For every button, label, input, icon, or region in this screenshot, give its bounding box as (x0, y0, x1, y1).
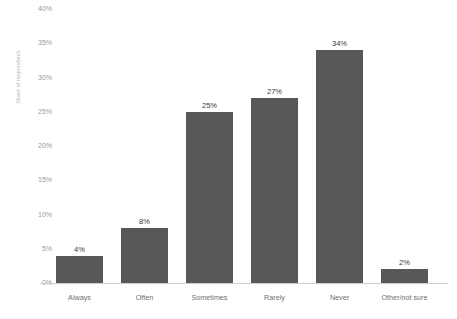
y-axis-tick-label: 25% (26, 108, 52, 116)
bar-value-label: 27% (241, 87, 308, 96)
bar-group: 25%Sometimes (186, 0, 233, 283)
bar-group: 34%Never (316, 0, 363, 283)
y-axis-tick-label: 10% (26, 211, 52, 219)
bar-value-label: 25% (176, 101, 243, 110)
bar-value-label: 8% (111, 217, 178, 226)
x-axis-line (40, 283, 448, 284)
y-axis-tick-label: 35% (26, 39, 52, 47)
bar[interactable] (186, 112, 233, 283)
bar-group: 8%Often (121, 0, 168, 283)
y-axis-title: Share of respondents (12, 32, 24, 122)
bar-group: 27%Rarely (251, 0, 298, 283)
y-axis-tick-label: 20% (26, 142, 52, 150)
y-axis-tick-labels: 0%5%10%15%20%25%30%35%40% (26, 0, 52, 319)
bar-value-label: 2% (371, 258, 438, 267)
bar-value-label: 4% (46, 245, 113, 254)
bar[interactable] (251, 98, 298, 283)
bar[interactable] (381, 269, 428, 283)
bar[interactable] (56, 256, 103, 283)
y-axis-tick-label: 15% (26, 176, 52, 184)
bar-group: 4%Always (56, 0, 103, 283)
bar-chart: Share of respondents 0%5%10%15%20%25%30%… (0, 0, 457, 319)
y-axis-tick-label: 40% (26, 5, 52, 13)
y-axis-tick-label: 30% (26, 74, 52, 82)
bar[interactable] (316, 50, 363, 283)
bar[interactable] (121, 228, 168, 283)
x-axis-category-label: Other/not sure (365, 293, 444, 302)
bar-value-label: 34% (306, 39, 373, 48)
bar-group: 2%Other/not sure (381, 0, 428, 283)
